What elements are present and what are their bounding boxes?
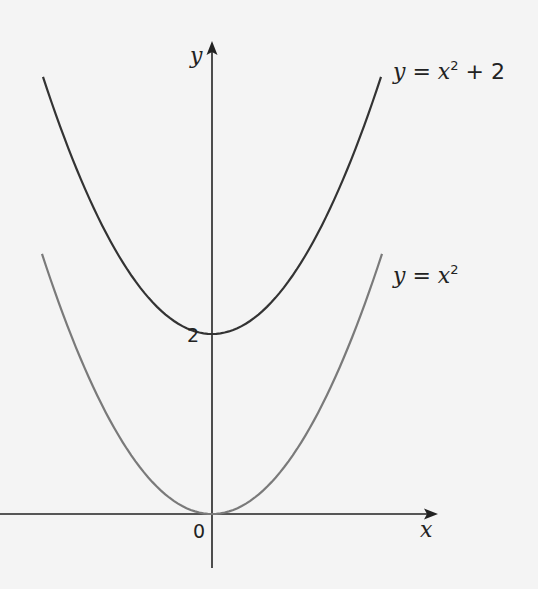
origin-label: 0 [193,520,205,542]
y-axis-label: y [189,43,203,68]
y-tick-label-2: 2 [187,324,199,346]
label-upper-curve: y = x2 + 2 [392,58,505,84]
parabola-chart: y x 0 2 y = x2 + 2 y = x2 [0,0,538,589]
label-lower-curve: y = x2 [392,262,459,288]
x-axis-label: x [420,517,433,542]
